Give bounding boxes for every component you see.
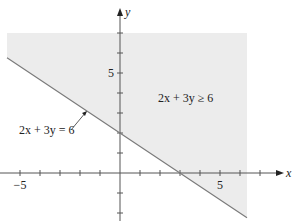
x-axis-label: x xyxy=(285,166,292,180)
annotation-arrowhead-icon xyxy=(82,111,87,116)
y-axis-arrow-icon xyxy=(117,8,123,16)
x-tick-label: −5 xyxy=(14,178,27,192)
inequality-label: 2x + 3y ≥ 6 xyxy=(158,91,213,105)
x-axis-arrow-icon xyxy=(276,170,284,176)
boundary-equation-label: 2x + 3y = 6 xyxy=(19,123,75,137)
y-tick-label: 5 xyxy=(108,66,114,80)
x-tick-label: 5 xyxy=(217,178,223,192)
y-axis-label: y xyxy=(124,5,131,19)
inequality-graph: −555 x y 2x + 3y = 6 2x + 3y ≥ 6 xyxy=(0,0,293,223)
